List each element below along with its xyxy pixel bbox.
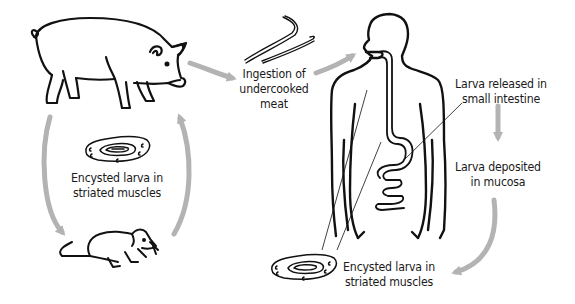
ingestion-label-line2: undercooked (234, 81, 315, 96)
encysted-larva-right-label: Encysted larva in striated muscles (341, 259, 438, 289)
encysted-larva-icon (86, 137, 150, 162)
encysted-larva-icon (272, 255, 337, 280)
ingestion-label: Ingestion of undercooked meat (234, 66, 315, 111)
larva-released-label: Larva released in small intestine (453, 76, 550, 106)
larva-released-line1: Larva released in (453, 76, 550, 91)
trichinella-life-cycle-diagram: Ingestion of undercooked meat Larva rele… (0, 0, 575, 304)
pig-icon (32, 18, 186, 108)
ingestion-label-line1: Ingestion of (234, 66, 315, 81)
arrow-pig-to-ingestion (190, 63, 232, 78)
encysted-larva-left-label: Encysted larva in striated muscles (69, 170, 166, 200)
encysted-left-line1: Encysted larva in (69, 170, 166, 185)
arrow-deposited-to-cyst (456, 200, 495, 272)
encysted-right-line1: Encysted larva in (341, 259, 438, 274)
encysted-right-line2: striated muscles (341, 274, 438, 289)
diagram-canvas (0, 0, 575, 304)
larva-released-line2: small intestine (453, 91, 550, 106)
larva-deposited-label: Larva deposited in mucosa (452, 159, 544, 189)
ingestion-label-line3: meat (234, 96, 315, 111)
arrow-ingestion-to-human (316, 56, 352, 73)
larva-deposited-line1: Larva deposited (452, 159, 544, 174)
arrow-rat-to-pig (174, 118, 189, 234)
rat-icon (60, 230, 158, 267)
arrow-pig-to-rat (44, 117, 62, 232)
encysted-left-line2: striated muscles (69, 185, 166, 200)
larva-deposited-line2: in mucosa (452, 174, 544, 189)
digestive-tract-icon (376, 51, 413, 210)
larvae-worm-icon (245, 16, 314, 63)
